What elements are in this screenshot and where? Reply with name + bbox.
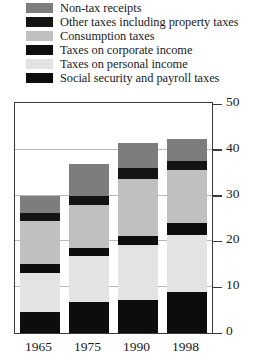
legend-swatch-social_security xyxy=(26,73,53,83)
bar-segment xyxy=(118,245,158,300)
legend-swatch-corporate_income xyxy=(26,45,53,55)
legend-swatch-non_tax_receipts xyxy=(26,3,53,13)
legend-swatch-other_taxes xyxy=(26,17,53,27)
bar-segment xyxy=(167,223,207,234)
legend-item-personal_income: Taxes on personal income xyxy=(0,57,264,71)
legend-label-non_tax_receipts: Non-tax receipts xyxy=(60,2,141,15)
bar-segment xyxy=(20,264,60,273)
legend-swatch-personal_income xyxy=(26,59,53,69)
bar-segment xyxy=(118,236,158,245)
legend-label-personal_income: Taxes on personal income xyxy=(60,58,188,71)
legend-item-non_tax_receipts: Non-tax receipts xyxy=(0,1,264,15)
bar-segment xyxy=(167,161,207,170)
y-axis: 01020304050 xyxy=(213,102,264,334)
bars-layer xyxy=(15,103,212,333)
bar-segment xyxy=(167,170,207,223)
y-axis-label-30: 30 xyxy=(226,187,240,201)
legend-label-corporate_income: Taxes on corporate income xyxy=(60,44,192,57)
bar-segment xyxy=(69,302,109,333)
y-tick-50 xyxy=(213,104,222,105)
bar-segment xyxy=(69,196,109,205)
chart-area: 01020304050 1965197519901998 xyxy=(0,96,264,364)
bar-segment xyxy=(167,292,207,333)
bar-segment xyxy=(69,164,109,196)
legend-item-other_taxes: Other taxes including property taxes xyxy=(0,15,264,29)
y-tick-20 xyxy=(213,241,222,242)
bar-segment xyxy=(69,256,109,302)
bar-segment xyxy=(118,168,158,179)
bar-segment xyxy=(167,139,207,161)
bar-1975[interactable] xyxy=(69,164,109,333)
y-axis-label-40: 40 xyxy=(226,141,240,155)
y-tick-40 xyxy=(213,149,222,150)
legend-label-other_taxes: Other taxes including property taxes xyxy=(60,16,239,29)
bar-segment xyxy=(69,205,109,248)
y-tick-30 xyxy=(213,195,222,196)
x-axis-label-1990: 1990 xyxy=(123,340,150,354)
legend-label-consumption_taxes: Consumption taxes xyxy=(60,30,155,43)
bar-1998[interactable] xyxy=(167,139,207,333)
bar-segment xyxy=(20,221,60,265)
y-tick-0 xyxy=(213,333,222,334)
chart-legend: Non-tax receiptsOther taxes including pr… xyxy=(0,0,264,85)
legend-item-social_security: Social security and payroll taxes xyxy=(0,71,264,85)
bar-segment xyxy=(20,213,60,221)
legend-label-social_security: Social security and payroll taxes xyxy=(60,72,219,85)
y-axis-label-10: 10 xyxy=(226,278,240,292)
bar-segment xyxy=(20,196,60,213)
bar-1990[interactable] xyxy=(118,143,158,333)
bar-segment xyxy=(20,273,60,312)
plot-frame xyxy=(14,102,213,334)
legend-item-consumption_taxes: Consumption taxes xyxy=(0,29,264,43)
y-tick-10 xyxy=(213,287,222,288)
legend-item-corporate_income: Taxes on corporate income xyxy=(0,43,264,57)
bar-1965[interactable] xyxy=(20,196,60,333)
bar-segment xyxy=(118,143,158,168)
x-axis-label-1975: 1975 xyxy=(74,340,101,354)
bar-segment xyxy=(118,179,158,236)
x-axis-label-1965: 1965 xyxy=(25,340,52,354)
y-axis-label-0: 0 xyxy=(226,324,233,338)
y-axis-label-50: 50 xyxy=(226,95,240,109)
bar-segment xyxy=(20,312,60,333)
x-axis: 1965197519901998 xyxy=(14,336,213,358)
bar-segment xyxy=(69,248,109,256)
x-axis-label-1998: 1998 xyxy=(172,340,199,354)
legend-swatch-consumption_taxes xyxy=(26,31,53,41)
bar-segment xyxy=(167,235,207,292)
bar-segment xyxy=(118,300,158,333)
y-axis-label-20: 20 xyxy=(226,233,240,247)
